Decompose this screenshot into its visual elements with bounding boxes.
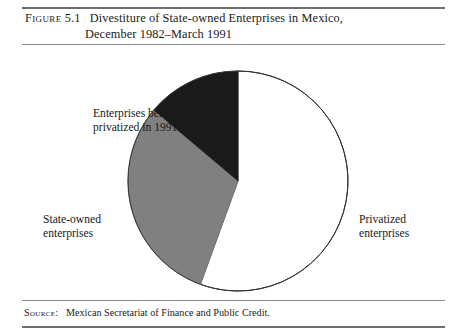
label-enterprises-being-privatized-line-1: Enterprises being: [93, 107, 177, 121]
source-label: Source:: [24, 307, 58, 318]
label-privatized-enterprises-line-2: enterprises: [359, 227, 409, 241]
label-privatized-enterprises-line-1: Privatized: [359, 213, 409, 227]
label-privatized-enterprises: Privatized enterprises: [359, 213, 409, 241]
figure-title: Figure 5.1 Divestiture of State-owned En…: [25, 11, 445, 42]
rule-top: [22, 7, 445, 9]
figure-container: Figure 5.1 Divestiture of State-owned En…: [0, 0, 467, 334]
label-state-owned-enterprises-line-1: State-owned: [43, 213, 101, 227]
label-state-owned-enterprises: State-owned enterprises: [43, 213, 101, 241]
figure-title-text-1: Divestiture of State-owned Enterprises i…: [90, 11, 343, 25]
rule-source-top: [22, 300, 445, 301]
pie-chart: Enterprises being privatized in 1991 Sta…: [0, 48, 467, 298]
pie-chart-svg: [0, 48, 467, 298]
figure-number: 5.1: [65, 11, 81, 25]
rule-under-title: [22, 44, 445, 45]
rule-source-bottom: [22, 326, 445, 328]
source-text: Mexican Secretariat of Finance and Publi…: [66, 307, 270, 318]
label-enterprises-being-privatized-line-2: privatized in 1991: [93, 121, 177, 135]
source-note: Source: Mexican Secretariat of Finance a…: [24, 306, 270, 319]
label-enterprises-being-privatized: Enterprises being privatized in 1991: [93, 107, 177, 135]
figure-label: Figure: [25, 11, 62, 25]
label-state-owned-enterprises-line-2: enterprises: [43, 227, 101, 241]
figure-title-line-2: December 1982–March 1991: [25, 27, 445, 43]
figure-title-line-1: Figure 5.1 Divestiture of State-owned En…: [25, 11, 445, 27]
